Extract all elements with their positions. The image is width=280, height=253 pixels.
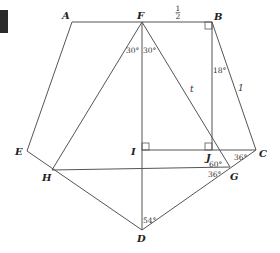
corner-block	[0, 10, 8, 33]
angle-label: 60°	[209, 160, 223, 169]
segment-HG	[52, 167, 230, 170]
point-label-F: F	[136, 10, 145, 21]
length-label: 1	[238, 83, 244, 93]
segment-FG	[142, 22, 230, 167]
segment-FH	[52, 22, 142, 170]
right-angle-marker-B	[205, 22, 212, 29]
segment-ED	[27, 151, 142, 230]
point-label-A: A	[61, 10, 70, 21]
length-label: t	[190, 84, 194, 94]
point-label-B: B	[213, 11, 222, 22]
point-label-G: G	[230, 171, 239, 182]
point-label-C: C	[259, 148, 267, 159]
angle-label: 18°	[213, 66, 227, 75]
segment-AE	[27, 22, 72, 151]
geometry-diagram: AFBCGDHEIJ 30°30°18°60°36°36°54° 12t1	[0, 0, 280, 253]
segment-CB	[212, 22, 256, 150]
right-angle-marker-J	[205, 143, 212, 150]
svg-text:2: 2	[176, 12, 181, 21]
point-labels: AFBCGDHEIJ	[14, 10, 267, 244]
angle-label: 30°	[143, 46, 157, 55]
point-label-E: E	[14, 146, 23, 157]
point-label-D: D	[136, 233, 146, 244]
angle-label: 54°	[143, 216, 157, 225]
length-labels: 12t1	[176, 4, 244, 94]
point-label-I: I	[130, 146, 136, 157]
angle-label: 30°	[126, 46, 140, 55]
right-angle-marker-I	[142, 143, 149, 150]
angle-label: 36°	[208, 170, 222, 179]
point-label-H: H	[41, 172, 52, 183]
angle-label: 36°	[234, 153, 248, 162]
segment-DC	[142, 150, 256, 230]
right-angle-markers	[142, 22, 212, 150]
length-label-fraction: 12	[176, 4, 181, 21]
segments	[27, 22, 256, 230]
